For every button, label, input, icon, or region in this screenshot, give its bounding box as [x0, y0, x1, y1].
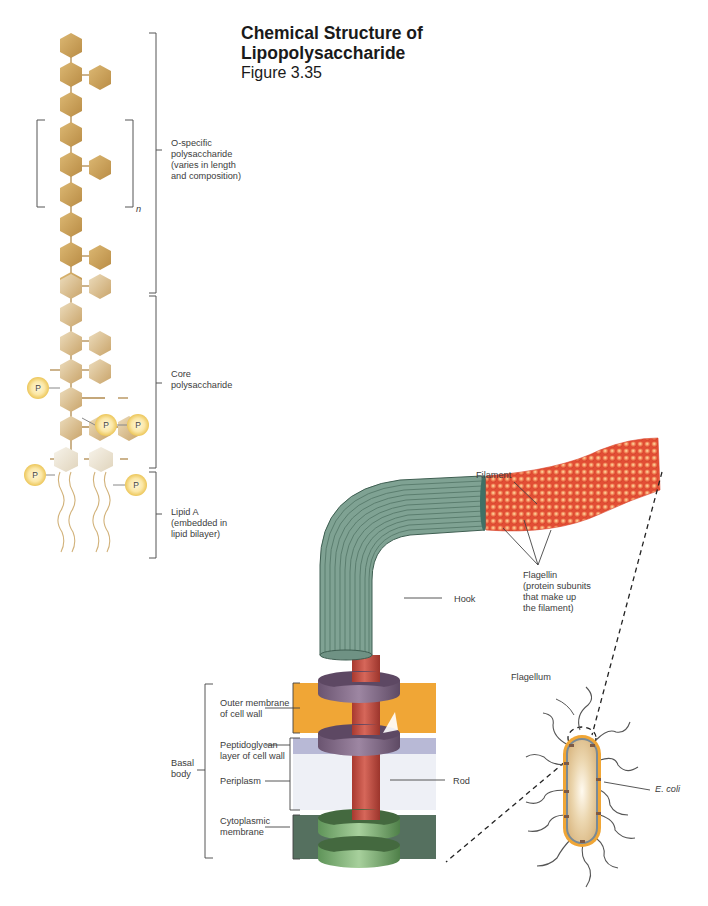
phosphate-label: P [32, 470, 38, 480]
core-hexagon [60, 416, 82, 441]
core-hexagon [60, 387, 82, 412]
core-bracket [149, 296, 156, 468]
core-polysaccharide-label: Core polysaccharide [171, 369, 232, 391]
sugar-hexagon [60, 62, 82, 87]
core-hexagon [60, 359, 82, 384]
sugar-hexagon [60, 242, 82, 267]
cytoplasmic-membrane-label: Cytoplasmic membrane [220, 816, 270, 838]
diagram-svg: P P P P P [0, 0, 708, 906]
core-hexagon [60, 331, 82, 356]
repeat-n-label: n [136, 204, 141, 215]
figure-canvas: Chemical Structure of Lipopolysaccharide… [0, 0, 708, 906]
lipid-a-label: Lipid A (embedded in lipid bilayer) [171, 507, 227, 540]
lipid-head-hexagon [54, 447, 78, 472]
lipid-a-tails [58, 472, 110, 552]
basal-body-label: Basal body [171, 758, 194, 780]
sugar-hexagon [60, 92, 82, 117]
periplasm-label: Periplasm [220, 776, 261, 787]
sugar-hexagon [60, 212, 82, 237]
sugar-hexagon-branch [89, 245, 111, 270]
hook-label: Hook [454, 594, 475, 605]
core-hexagon [89, 331, 111, 356]
ecoli-cell [526, 687, 650, 887]
lipid-head-hexagon [89, 447, 113, 472]
sugar-hexagon-branch [89, 65, 111, 90]
phosphate-label: P [103, 420, 109, 430]
peptidoglycan-label: Peptidoglycan layer of cell wall [220, 740, 285, 762]
o-specific-label: O-specific polysaccharide (varies in len… [171, 138, 241, 182]
filament [486, 438, 660, 531]
outer-membrane-label: Outer membrane of cell wall [220, 698, 289, 720]
rod-label: Rod [453, 776, 470, 787]
sugar-hexagon [60, 122, 82, 147]
o-specific-bracket [149, 33, 156, 293]
basal-body-bracket [205, 684, 213, 858]
sugar-hexagon [60, 182, 82, 207]
repeat-bracket-left [37, 120, 45, 207]
phosphate-label: P [35, 383, 41, 393]
core-hexagon [60, 302, 82, 327]
lipid-a-heads [54, 447, 113, 472]
hook [320, 475, 488, 660]
ecoli-label: E. coli [655, 784, 680, 795]
repeat-bracket-right [125, 120, 133, 207]
phosphate-label: P [133, 480, 139, 490]
flagellin-label: Flagellin (protein subunits that make up… [523, 570, 591, 614]
o-specific-sugars [60, 33, 111, 297]
core-hexagon [89, 274, 111, 299]
sugar-hexagon [60, 33, 82, 58]
phosphate-label: P [135, 420, 141, 430]
ecoli-body [567, 739, 597, 843]
flagellum-label: Flagellum [511, 672, 551, 683]
sugar-hexagon-branch [89, 155, 111, 180]
sugar-hexagon [60, 152, 82, 177]
filament-label: Filament [476, 470, 511, 481]
core-hexagon [89, 359, 111, 384]
lipid-a-bracket [149, 472, 156, 558]
